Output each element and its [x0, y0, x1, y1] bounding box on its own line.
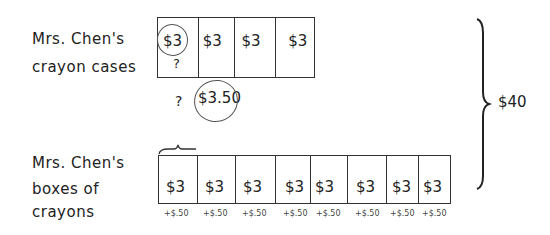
tape-cell: $3: [276, 18, 314, 77]
cell-value: $3: [288, 32, 307, 50]
bottom-label-line2: boxes of: [32, 180, 99, 198]
cell-value: $3: [392, 178, 411, 196]
cell-value: $3: [285, 178, 304, 196]
question-mark: ?: [173, 56, 180, 71]
increment-label: +$.50: [355, 209, 380, 218]
bottom-label-line1: Mrs. Chen's: [32, 154, 125, 172]
cell-value: $3: [356, 178, 375, 196]
top-label-line2: crayon cases: [32, 58, 136, 76]
brace-icon: [474, 18, 494, 190]
cell-value: $3: [315, 178, 334, 196]
tape-cell: $3: [235, 18, 277, 77]
increment-label: +$.50: [390, 209, 415, 218]
increment-label: +$.50: [283, 209, 308, 218]
top-label-line1: Mrs. Chen's: [32, 30, 125, 48]
increment-label: +$.50: [164, 209, 189, 218]
increment-label: +$.50: [422, 209, 447, 218]
tape-cell: $3: [199, 18, 235, 77]
bottom-label-line3: crayons: [32, 203, 94, 221]
cell-value: $3: [243, 178, 262, 196]
increment-label: +$.50: [316, 209, 341, 218]
cell-value: $3: [423, 178, 442, 196]
increment-label: +$.50: [242, 209, 267, 218]
cell-value: $3: [242, 32, 261, 50]
total-value: $40: [498, 93, 527, 111]
cell-value: $3: [166, 178, 185, 196]
cell-value: $3: [203, 32, 222, 50]
boxes-of-crayons-tape: $3 $3 $3 $3 $3 $3 $3 $3: [158, 155, 451, 204]
circle-annotation: [189, 75, 242, 127]
cell-value: $3: [205, 178, 224, 196]
increment-label: +$.50: [203, 209, 228, 218]
bottom-question-mark: ?: [175, 93, 182, 109]
